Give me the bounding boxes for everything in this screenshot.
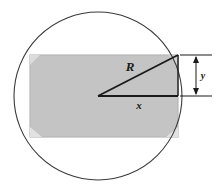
- geometry-figure: R x y: [0, 0, 216, 191]
- dimension-arrowhead-up: [193, 56, 199, 63]
- label-half-width: x: [135, 99, 142, 111]
- dimension-arrowhead-down: [193, 88, 199, 95]
- figure-canvas: R x y: [0, 0, 216, 191]
- label-radius: R: [125, 59, 135, 74]
- label-half-height: y: [200, 70, 206, 81]
